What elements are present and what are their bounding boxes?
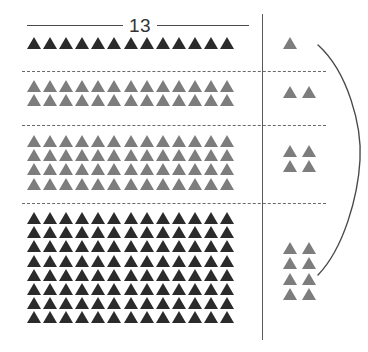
triangle-icon	[156, 311, 170, 323]
triangle-icon	[302, 86, 316, 98]
triangle-icon	[107, 80, 121, 92]
triangle-icon	[43, 94, 57, 106]
triangle-icon	[107, 297, 121, 309]
triangle-icon	[172, 135, 186, 147]
group-4-right-row-4	[283, 288, 316, 300]
triangle-icon	[107, 269, 121, 281]
triangle-icon	[204, 226, 218, 238]
triangle-icon	[204, 297, 218, 309]
triangle-icon	[91, 135, 105, 147]
triangle-icon	[188, 94, 202, 106]
group-2-left-row-2	[27, 94, 234, 106]
vertical-divider-icon	[262, 14, 263, 340]
triangle-icon	[283, 86, 297, 98]
group-4-right-row-3	[283, 273, 316, 285]
triangle-icon	[124, 37, 138, 49]
group-row-1-left-grid	[27, 37, 234, 51]
group-3-right-row-2	[283, 160, 316, 172]
triangle-icon	[188, 178, 202, 190]
triangle-icon	[140, 240, 154, 252]
triangle-icon	[156, 135, 170, 147]
triangle-icon	[59, 255, 73, 267]
triangle-icon	[156, 226, 170, 238]
triangle-icon	[27, 226, 41, 238]
triangle-icon	[204, 269, 218, 281]
triangle-icon	[59, 135, 73, 147]
group-size-header: 13	[27, 16, 249, 34]
triangle-icon	[27, 37, 41, 49]
triangle-icon	[172, 94, 186, 106]
triangle-icon	[220, 226, 234, 238]
triangle-icon	[75, 311, 89, 323]
dashed-separator-icon-2	[22, 125, 326, 126]
triangle-icon	[27, 212, 41, 224]
triangle-icon	[220, 163, 234, 175]
triangle-icon	[27, 269, 41, 281]
triangle-icon	[27, 163, 41, 175]
triangle-icon	[220, 135, 234, 147]
triangle-icon	[43, 226, 57, 238]
triangle-icon	[204, 255, 218, 267]
triangle-icon	[91, 226, 105, 238]
triangle-icon	[59, 163, 73, 175]
triangle-icon	[140, 311, 154, 323]
triangle-icon	[283, 257, 297, 269]
triangle-icon	[75, 226, 89, 238]
group-3-right-row-1	[283, 145, 316, 157]
triangle-icon	[107, 212, 121, 224]
triangle-icon	[204, 178, 218, 190]
triangle-icon	[172, 80, 186, 92]
triangle-icon	[220, 311, 234, 323]
triangle-icon	[172, 149, 186, 161]
group-4-right-row-1	[283, 242, 316, 254]
triangle-icon	[220, 178, 234, 190]
triangle-icon	[283, 160, 297, 172]
group-4-left-row-2	[27, 226, 234, 238]
triangle-icon	[27, 297, 41, 309]
triangle-icon	[188, 240, 202, 252]
triangle-icon	[283, 145, 297, 157]
triangle-icon	[59, 212, 73, 224]
triangle-icon	[43, 283, 57, 295]
triangle-icon	[43, 297, 57, 309]
triangle-icon	[27, 283, 41, 295]
triangle-icon	[204, 212, 218, 224]
triangle-icon	[302, 160, 316, 172]
triangle-icon	[124, 283, 138, 295]
triangle-icon	[172, 269, 186, 281]
triangle-icon	[75, 80, 89, 92]
triangle-icon	[140, 212, 154, 224]
triangle-icon	[124, 149, 138, 161]
triangle-icon	[188, 149, 202, 161]
triangle-icon	[172, 297, 186, 309]
triangle-icon	[27, 255, 41, 267]
triangle-icon	[59, 178, 73, 190]
triangle-icon	[27, 80, 41, 92]
triangle-icon	[188, 163, 202, 175]
triangle-icon	[91, 269, 105, 281]
triangle-icon	[156, 269, 170, 281]
triangle-icon	[220, 212, 234, 224]
triangle-icon	[124, 255, 138, 267]
triangle-icon	[107, 311, 121, 323]
group-row-3-left-grid	[27, 135, 234, 192]
triangle-icon	[140, 94, 154, 106]
triangle-icon	[220, 283, 234, 295]
triangle-icon	[204, 94, 218, 106]
group-row-1-right-grid	[283, 37, 297, 52]
triangle-icon	[91, 80, 105, 92]
triangle-icon	[220, 269, 234, 281]
triangle-icon	[156, 240, 170, 252]
triangle-icon	[75, 149, 89, 161]
triangle-icon	[75, 37, 89, 49]
triangle-icon	[91, 163, 105, 175]
triangle-icon	[27, 135, 41, 147]
triangle-icon	[204, 135, 218, 147]
triangle-icon	[188, 255, 202, 267]
triangle-icon	[91, 240, 105, 252]
triangle-icon	[75, 269, 89, 281]
triangle-icon	[140, 283, 154, 295]
triangle-icon	[156, 163, 170, 175]
triangle-icon	[220, 297, 234, 309]
header-rule-right-segment	[157, 25, 249, 26]
